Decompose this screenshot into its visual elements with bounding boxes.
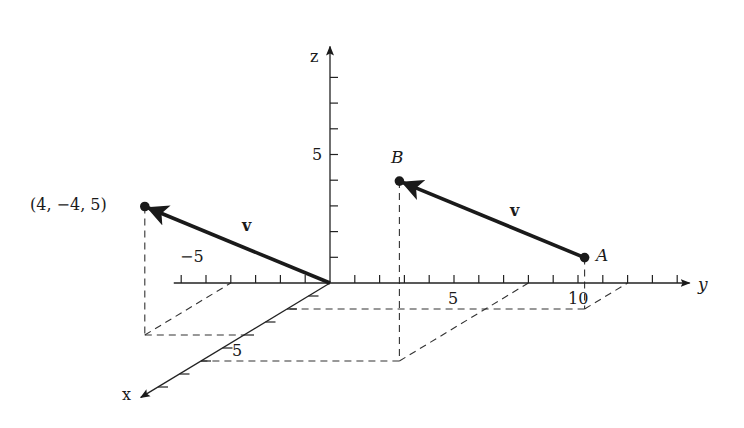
y-axis-label: y bbox=[697, 274, 708, 294]
floor-line-to-y-axis-a bbox=[585, 283, 628, 309]
point-b bbox=[395, 176, 405, 186]
y-tick-label-neg5: −5 bbox=[180, 247, 204, 266]
y-tick-label-5: 5 bbox=[448, 289, 458, 308]
x-axis-label: x bbox=[122, 385, 131, 404]
point-a bbox=[580, 253, 590, 263]
floor-line-to-y-axis-p bbox=[145, 283, 231, 335]
point-a-label: A bbox=[594, 245, 608, 265]
vector-v-label-origin: v bbox=[241, 216, 252, 235]
z-axis-label: z bbox=[310, 47, 318, 66]
point-b-label: B bbox=[390, 147, 404, 167]
x-tick-label-5: 5 bbox=[232, 341, 242, 360]
y-tick-label-10: 10 bbox=[568, 289, 588, 308]
points bbox=[140, 176, 589, 262]
point-p bbox=[140, 202, 150, 212]
z-tick-label-5: 5 bbox=[312, 145, 322, 164]
vector-v-0 bbox=[148, 208, 330, 283]
vector-v-1 bbox=[403, 183, 585, 258]
floor-line-to-y-axis-b bbox=[399, 283, 528, 361]
vector-v-label-ab: v bbox=[509, 201, 520, 220]
vector-3d-diagram: z y x 5 −5 5 10 5 (4, −4, 5) B A v v bbox=[0, 0, 744, 428]
vectors bbox=[148, 183, 584, 283]
point-p-label: (4, −4, 5) bbox=[30, 195, 107, 214]
dashed-guides bbox=[145, 181, 628, 361]
axes bbox=[141, 47, 690, 398]
